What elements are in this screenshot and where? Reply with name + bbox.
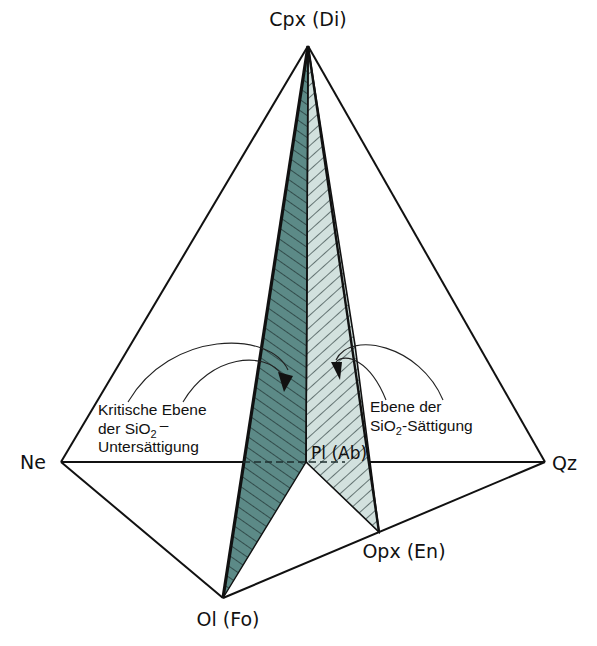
vertex-label-cpx: Cpx (Di)	[269, 8, 346, 30]
vertex-label-pl: Pl (Ab)	[311, 443, 367, 463]
saturation-line-2: SiO2-Sättigung	[370, 417, 473, 437]
saturation-sio-text: SiO	[370, 417, 396, 434]
critical-dash: –	[160, 416, 169, 433]
saturation-suffix: -Sättigung	[402, 417, 473, 434]
label-critical-plane: Kritische Ebene der SiO2– Untersättigung	[98, 401, 207, 455]
vertex-label-opx: Opx (En)	[362, 540, 445, 562]
vertex-label-ne: Ne	[20, 451, 46, 473]
vertex-label-qz: Qz	[552, 452, 577, 474]
edge-ne-ol	[61, 462, 223, 598]
tetrahedron-diagram: Cpx (Di) Ne Qz Ol (Fo) Opx (En) Pl (Ab) …	[0, 0, 597, 646]
critical-line-2: der SiO2–	[98, 416, 169, 440]
label-saturation-plane: Ebene der SiO2-Sättigung	[370, 398, 473, 437]
saturation-line-1: Ebene der	[370, 398, 442, 415]
critical-line-1: Kritische Ebene	[98, 401, 207, 418]
critical-line-3: Untersättigung	[98, 438, 199, 455]
vertex-label-ol: Ol (Fo)	[197, 608, 260, 630]
critical-sio-text: der SiO	[98, 420, 151, 437]
